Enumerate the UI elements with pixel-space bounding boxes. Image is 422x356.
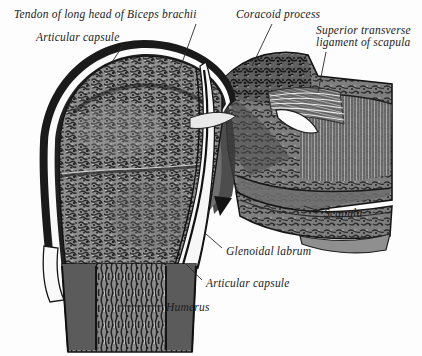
label-articular-capsule-top: Articular capsule xyxy=(36,31,120,44)
label-articular-capsule-bottom: Articular capsule xyxy=(206,277,290,290)
label-coracoid-process: Coracoid process xyxy=(236,8,320,21)
label-glenoidal-labrum: Glenoidal labrum xyxy=(226,245,311,258)
label-tendon-biceps: Tendon of long head of Biceps brachii xyxy=(14,8,197,21)
label-humerus: Humerus xyxy=(166,301,210,314)
illustration-canvas xyxy=(0,0,422,356)
anatomical-figure: Tendon of long head of Biceps brachii Ar… xyxy=(0,0,422,356)
label-scapula: Scapula xyxy=(324,207,362,220)
label-superior-transverse-ligament-line2: ligament of scapula xyxy=(316,36,411,49)
